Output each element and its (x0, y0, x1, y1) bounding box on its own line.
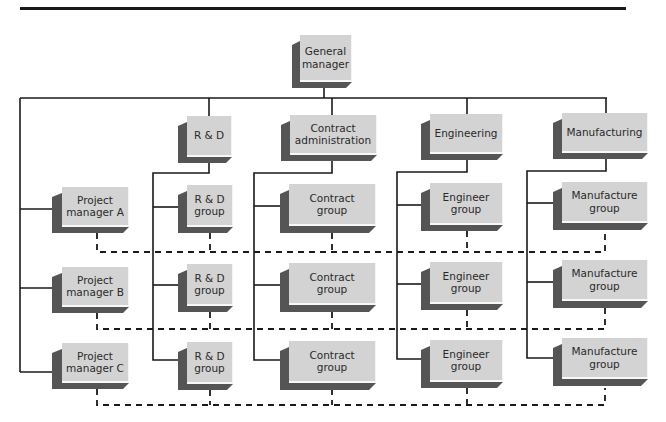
node-label: Manufacture group (562, 260, 648, 301)
node-rd-group-1: R & D group (178, 185, 233, 233)
node-contract-group-3: Contract group (280, 341, 376, 390)
node-label: Contract administration (290, 115, 377, 155)
node-manufacture-group-3: Manufacture group (553, 338, 648, 386)
node-project-manager-c: Project manager C (52, 343, 129, 389)
node-rd-group-3: R & D group (178, 342, 233, 390)
node-label: Project manager A (62, 187, 129, 227)
node-manufacturing: Manufacturing (553, 113, 648, 159)
node-manufacture-group-2: Manufacture group (553, 260, 648, 308)
node-label: R & D group (187, 185, 233, 227)
node-manufacture-group-1: Manufacture group (553, 182, 648, 230)
node-label: Engineer group (430, 262, 503, 304)
node-label: R & D (187, 116, 232, 157)
node-label: Manufacturing (562, 113, 648, 153)
node-label: Contract group (289, 184, 376, 226)
node-label: Contract group (289, 341, 376, 383)
node-engineer-group-1: Engineer group (421, 183, 503, 231)
node-rd: R & D (178, 116, 232, 163)
node-label: Project manager B (62, 267, 129, 307)
node-contract-group-2: Contract group (280, 263, 376, 312)
node-label: Engineer group (430, 340, 503, 382)
node-label: R & D group (187, 342, 233, 384)
node-general-manager: General manager (292, 35, 352, 88)
node-engineering: Engineering (421, 114, 503, 160)
node-engineer-group-3: Engineer group (421, 340, 503, 388)
node-contract-administration: Contract administration (281, 115, 377, 161)
node-label: Engineer group (430, 183, 503, 225)
node-label: Contract group (289, 263, 376, 305)
node-label: Manufacture group (562, 338, 648, 379)
node-engineer-group-2: Engineer group (421, 262, 503, 310)
node-project-manager-b: Project manager B (52, 267, 129, 313)
node-label: Manufacture group (562, 182, 648, 223)
node-label: General manager (300, 35, 352, 82)
node-project-manager-a: Project manager A (52, 187, 129, 233)
node-label: R & D group (187, 264, 233, 306)
node-contract-group-1: Contract group (280, 184, 376, 233)
node-label: Project manager C (62, 343, 129, 383)
node-label: Engineering (430, 114, 503, 154)
node-rd-group-2: R & D group (178, 264, 233, 312)
